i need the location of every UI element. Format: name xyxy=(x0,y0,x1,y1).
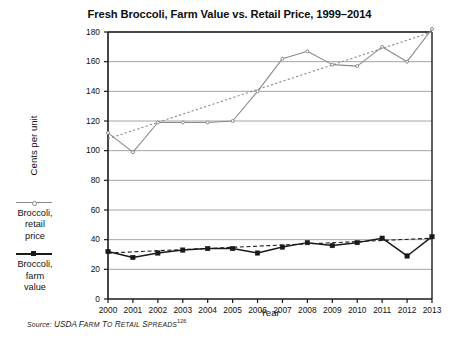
data-point-retail xyxy=(206,121,209,124)
data-point-farm xyxy=(430,235,434,239)
legend-item-farm[interactable]: Broccoli,farmvalue xyxy=(2,249,68,293)
data-point-retail xyxy=(156,121,159,124)
data-point-retail xyxy=(356,65,359,68)
data-point-retail xyxy=(306,50,309,53)
y-tick-label: 140 xyxy=(70,86,100,96)
y-tick-label: 120 xyxy=(70,116,100,126)
source-text: USDA FARM TO RETAIL SPREADS xyxy=(54,320,177,329)
data-point-retail xyxy=(381,45,384,48)
y-tick-label: 0 xyxy=(70,294,100,304)
x-tick-label: 2013 xyxy=(417,305,447,315)
data-point-farm xyxy=(255,251,259,255)
data-point-retail xyxy=(406,60,409,63)
data-point-farm xyxy=(230,246,234,250)
data-point-retail xyxy=(331,63,334,66)
data-point-farm xyxy=(280,245,284,249)
y-tick-label: 180 xyxy=(70,27,100,37)
data-point-farm xyxy=(106,249,110,253)
data-point-farm xyxy=(380,236,384,240)
y-tick-label: 60 xyxy=(70,205,100,215)
y-axis-label: Cents per unit xyxy=(28,86,39,206)
data-point-farm xyxy=(156,251,160,255)
source-footnote: 126 xyxy=(177,318,186,324)
plot-area xyxy=(0,0,459,338)
data-point-farm xyxy=(181,248,185,252)
data-point-retail xyxy=(281,57,284,60)
legend-swatch-retail xyxy=(2,198,68,207)
chart-figure: Fresh Broccoli, Farm Value vs. Retail Pr… xyxy=(0,0,459,338)
legend-label-retail: Broccoli,retailprice xyxy=(2,208,68,242)
data-point-farm xyxy=(305,240,309,244)
data-point-retail xyxy=(431,28,434,31)
legend-item-retail[interactable]: Broccoli,retailprice xyxy=(2,198,68,242)
data-point-retail xyxy=(131,151,134,154)
data-point-retail xyxy=(107,131,110,134)
data-point-farm xyxy=(330,243,334,247)
legend-marker-farm xyxy=(31,251,36,256)
y-tick-label: 100 xyxy=(70,145,100,155)
legend-label-farm: Broccoli,farmvalue xyxy=(2,259,68,293)
y-tick-label: 80 xyxy=(70,175,100,185)
y-tick-label: 160 xyxy=(70,56,100,66)
data-point-farm xyxy=(131,255,135,259)
data-point-retail xyxy=(256,90,259,93)
y-tick-label: 40 xyxy=(70,234,100,244)
chart-legend: Broccoli,retailpriceBroccoli,farmvalue xyxy=(2,198,68,300)
data-point-farm xyxy=(355,240,359,244)
y-tick-label: 20 xyxy=(70,264,100,274)
source-note: Source: USDA FARM TO RETAIL SPREADS126 xyxy=(27,318,186,329)
data-point-farm xyxy=(405,254,409,258)
data-point-retail xyxy=(231,120,234,123)
data-point-farm xyxy=(205,246,209,250)
legend-marker-retail xyxy=(32,201,37,206)
legend-swatch-farm xyxy=(2,249,68,258)
data-point-retail xyxy=(181,121,184,124)
source-prefix: Source: xyxy=(27,321,52,328)
